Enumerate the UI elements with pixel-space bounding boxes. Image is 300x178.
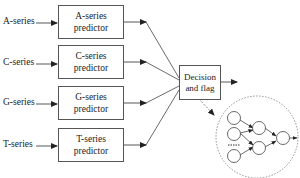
t-series-predictor-box: T-seriespredictor: [58, 128, 124, 162]
input-label-c: C-series: [3, 57, 34, 68]
input-label-t: T-series: [3, 139, 33, 150]
predictor-line2: predictor: [74, 62, 108, 74]
input-label-g: G-series: [3, 97, 35, 108]
converging-lines: [146, 22, 179, 145]
predictor-line2: predictor: [74, 103, 108, 115]
detail-dashed-arrow: [199, 99, 214, 115]
predictor-line2: predictor: [74, 22, 108, 34]
predictor-line1: T-series: [74, 133, 108, 145]
predictor-line1: C-series: [74, 50, 108, 62]
decision-line2: and flag: [184, 83, 216, 94]
input-arrows: [36, 23, 57, 146]
predictor-line1: A-series: [74, 10, 108, 22]
predictor-line1: G-series: [74, 91, 108, 103]
decision-and-flag-box: Decisionand flag: [179, 65, 221, 100]
predictor-line2: predictor: [74, 145, 108, 157]
c-series-predictor-box: C-seriespredictor: [58, 45, 124, 79]
input-label-a: A-series: [3, 16, 35, 27]
a-series-predictor-box: A-seriespredictor: [58, 5, 124, 39]
g-series-predictor-box: G-seriespredictor: [58, 86, 124, 120]
neural-network-icon: [228, 112, 298, 163]
decision-line1: Decision: [184, 72, 216, 83]
diagram-connectors: [0, 0, 300, 178]
predictor-output-arrows: [124, 22, 146, 145]
